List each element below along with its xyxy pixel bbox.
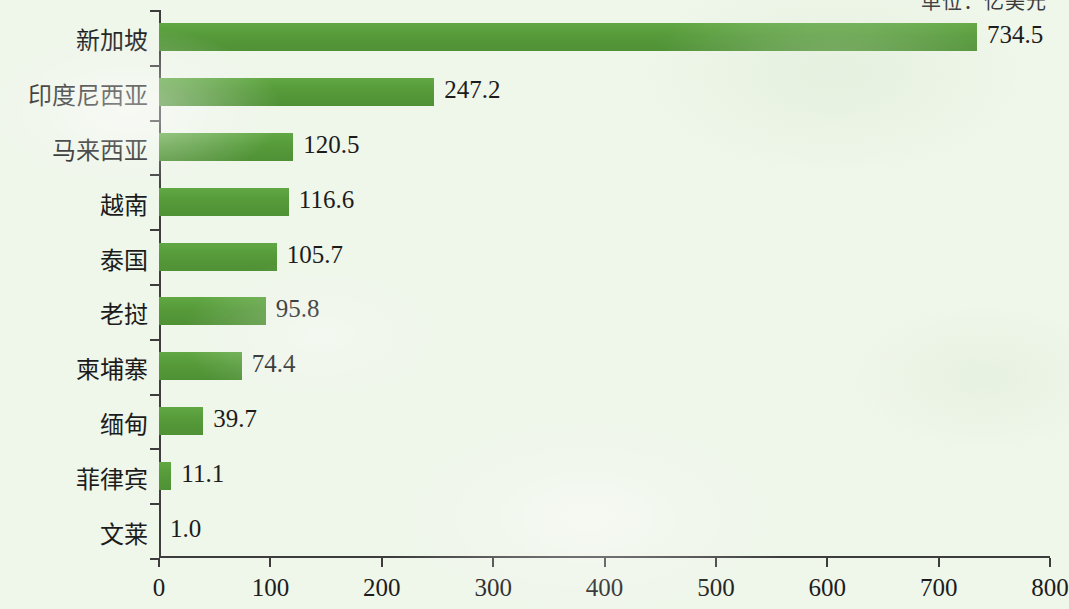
bar <box>159 407 203 435</box>
bar <box>159 133 293 161</box>
x-axis-tick <box>604 558 606 567</box>
y-axis-tick <box>150 10 159 12</box>
category-label: 柬埔寨 <box>76 350 148 385</box>
category-label: 马来西亚 <box>52 131 148 166</box>
y-axis-tick <box>150 174 159 176</box>
y-axis-tick <box>150 339 159 341</box>
unit-caption: 单位：亿美元 <box>921 0 1047 15</box>
x-axis-tick-label: 300 <box>474 574 512 602</box>
x-axis-tick <box>492 558 494 567</box>
x-axis-tick-label: 400 <box>586 574 624 602</box>
y-axis-tick <box>150 120 159 122</box>
x-axis-tick-label: 800 <box>1031 574 1069 602</box>
category-label: 印度尼西亚 <box>28 76 148 111</box>
y-axis-tick <box>150 229 159 231</box>
bar-value-label: 105.7 <box>287 241 343 269</box>
bar <box>159 462 171 490</box>
x-axis-tick <box>715 558 717 567</box>
x-axis-tick <box>1049 558 1051 567</box>
bar <box>159 517 160 545</box>
y-axis-tick <box>150 65 159 67</box>
x-axis-tick <box>938 558 940 567</box>
category-axis-labels: 新加坡印度尼西亚马来西亚越南泰国老挝柬埔寨缅甸菲律宾文莱 <box>0 10 148 558</box>
bar-value-label: 95.8 <box>276 295 320 323</box>
horizontal-bar-chart: 单位：亿美元 新加坡印度尼西亚马来西亚越南泰国老挝柬埔寨缅甸菲律宾文莱 0100… <box>0 0 1069 609</box>
x-axis-tick-label: 0 <box>153 574 166 602</box>
x-axis-tick-label: 200 <box>363 574 401 602</box>
x-axis-tick <box>826 558 828 567</box>
bar-value-label: 247.2 <box>444 76 500 104</box>
bar <box>159 188 289 216</box>
x-axis-tick-label: 600 <box>809 574 847 602</box>
x-axis-tick <box>158 558 160 567</box>
x-axis-tick-label: 500 <box>697 574 735 602</box>
x-axis-tick <box>381 558 383 567</box>
bar <box>159 352 242 380</box>
bar-value-label: 74.4 <box>252 350 296 378</box>
x-axis-tick <box>269 558 271 567</box>
bar-value-label: 11.1 <box>181 460 224 488</box>
plot-area: 0100200300400500600700800 734.5247.2120.… <box>159 10 1050 558</box>
x-axis-tick-label: 700 <box>920 574 958 602</box>
bar-value-label: 39.7 <box>213 405 257 433</box>
bar-value-label: 116.6 <box>299 186 354 214</box>
bar <box>159 23 977 51</box>
bar <box>159 243 277 271</box>
bar-value-label: 734.5 <box>987 21 1043 49</box>
category-label: 泰国 <box>100 241 148 276</box>
category-label: 老挝 <box>100 295 148 330</box>
category-label: 缅甸 <box>100 405 148 440</box>
bar <box>159 78 434 106</box>
bar <box>159 297 266 325</box>
category-label: 菲律宾 <box>76 460 148 495</box>
category-label: 文莱 <box>100 515 148 550</box>
y-axis-tick <box>150 503 159 505</box>
bar-value-label: 1.0 <box>170 515 201 543</box>
category-label: 越南 <box>100 186 148 221</box>
category-label: 新加坡 <box>76 21 148 56</box>
bar-value-label: 120.5 <box>303 131 359 159</box>
x-axis-tick-label: 100 <box>252 574 290 602</box>
y-axis-tick <box>150 448 159 450</box>
y-axis-tick <box>150 284 159 286</box>
y-axis-tick <box>150 394 159 396</box>
